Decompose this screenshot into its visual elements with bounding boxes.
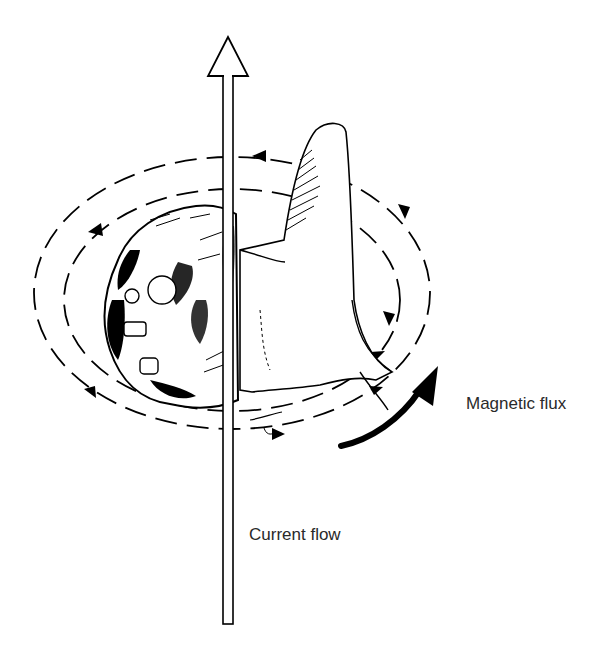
right-hand-rule-illustration [0,0,614,649]
magnetic-flux-label: Magnetic flux [466,394,566,414]
current-flow-label: Current flow [249,525,341,545]
thumb [240,123,392,392]
